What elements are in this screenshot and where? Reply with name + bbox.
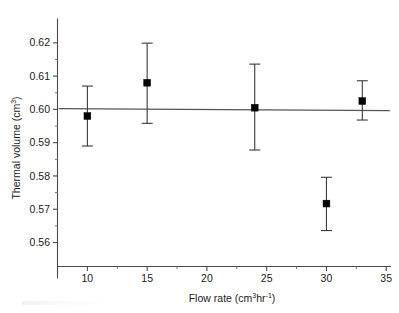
x-tick-label: 25	[261, 272, 273, 284]
x-tick-label: 30	[321, 272, 333, 284]
y-tick-label: 0.57	[30, 203, 51, 215]
axes-group	[58, 19, 392, 279]
data-marker	[144, 79, 151, 86]
x-tick-label: 35	[380, 272, 392, 284]
y-tick-label: 0.62	[30, 36, 51, 48]
data-marker	[359, 98, 366, 105]
y-axis-title: Thermal volume (cm3)	[10, 96, 22, 199]
x-axis-tick-labels: 101520253035	[82, 272, 393, 284]
figure-container: 0.560.570.580.590.600.610.62 10152025303…	[0, 0, 399, 313]
data-marker	[84, 113, 91, 120]
x-tick-label: 20	[201, 272, 213, 284]
data-marker	[323, 200, 330, 207]
x-axis-title: Flow rate (cm3hr-1)	[189, 292, 276, 304]
data-point	[249, 64, 260, 150]
y-tick-label: 0.61	[30, 70, 51, 82]
y-tick-label: 0.56	[30, 236, 51, 248]
x-tick-label: 10	[82, 272, 94, 284]
y-axis-tick-labels: 0.560.570.580.590.600.610.62	[30, 36, 51, 248]
data-marker	[251, 104, 258, 111]
y-tick-label: 0.59	[30, 136, 51, 148]
thermal-volume-scatter-chart: 0.560.570.580.590.600.610.62 10152025303…	[0, 0, 399, 313]
y-tick-label: 0.58	[30, 170, 51, 182]
data-series-group	[82, 43, 368, 230]
data-point	[82, 86, 93, 146]
mean-reference-line	[59, 109, 390, 111]
data-point	[142, 43, 153, 123]
data-point	[357, 81, 368, 120]
x-tick-label: 15	[141, 272, 153, 284]
data-point	[321, 177, 332, 230]
y-tick-label: 0.60	[30, 103, 51, 115]
x-axis-ticks	[87, 267, 386, 272]
y-axis-ticks	[53, 43, 58, 243]
